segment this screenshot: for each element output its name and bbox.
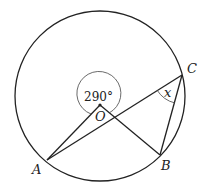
angle-x-label: x [164,85,172,100]
label-b: B [160,158,171,173]
label-o: O [95,109,106,124]
label-a: A [31,162,41,177]
reflex-angle-label: 290° [84,90,113,104]
label-c: C [187,61,197,76]
geometry-diagram: 290° O x A B C [0,0,205,192]
segment-ob [100,105,160,155]
segment-oa [47,105,100,160]
